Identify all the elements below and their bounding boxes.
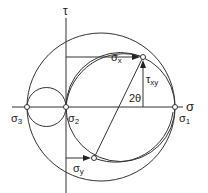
diagram-canvas: τ σ σ3 σ2 σ1 σx σy τxy 2θ xyxy=(0,0,208,193)
sigma3-point xyxy=(25,105,30,110)
sigma1-point xyxy=(173,105,178,110)
angle-2theta-label: 2θ xyxy=(129,92,141,104)
sigma-y-label: σy xyxy=(73,162,84,176)
stress-point-y xyxy=(92,156,97,161)
sigma-x-label: σx xyxy=(111,51,122,65)
tau-xy-label: τxy xyxy=(146,73,158,87)
sigma-axis-label: σ xyxy=(186,99,194,114)
stress-point-x xyxy=(141,55,146,60)
sigma-y-arrow-icon xyxy=(83,155,91,161)
mohr-circle-diagram: τ σ σ3 σ2 σ1 σx σy τxy 2θ xyxy=(0,0,208,193)
sigma1-label: σ1 xyxy=(179,112,191,126)
stress-arc-lower xyxy=(94,112,173,162)
sigma2-point xyxy=(64,105,69,110)
sigma2-label: σ2 xyxy=(68,112,80,126)
tau-axis-label: τ xyxy=(63,4,68,18)
sigma3-label: σ3 xyxy=(11,112,23,126)
